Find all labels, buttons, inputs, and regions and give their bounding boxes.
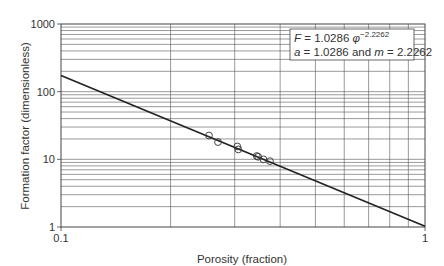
- y-tick-100: 100: [37, 86, 55, 98]
- equation-line-2: a = 1.0286 and m = 2.2262: [294, 46, 432, 58]
- x-tick-0.1: 0.1: [53, 232, 68, 244]
- x-tick-1: 1: [422, 232, 428, 244]
- x-axis-label: Porosity (fraction): [197, 253, 287, 265]
- y-tick-1000: 1000: [31, 18, 55, 30]
- equation-box: F = 1.0286 φ−2.2262 a = 1.0286 and m = 2…: [290, 29, 432, 60]
- chart: 1000 100 10 1 0.1 1 Porosity (fraction) …: [0, 0, 444, 266]
- y-tick-10: 10: [43, 153, 55, 165]
- y-axis-label: Formation factor (dimensionless): [19, 42, 31, 210]
